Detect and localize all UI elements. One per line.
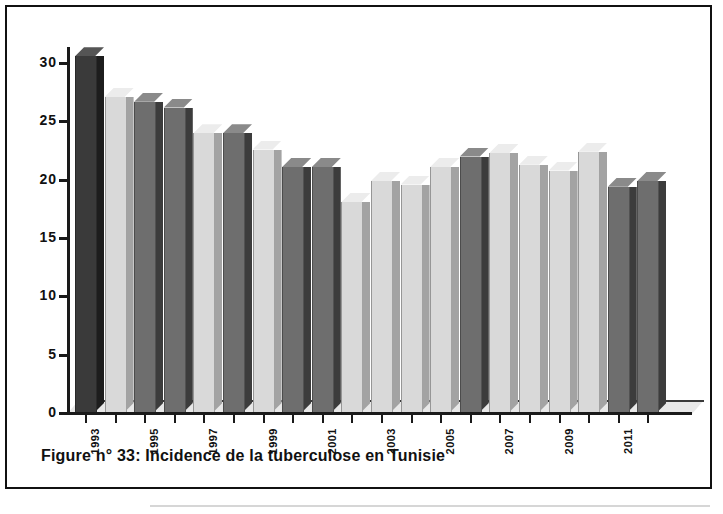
bar-top-face: [608, 178, 637, 187]
bar-front-face: [460, 157, 482, 413]
y-tick-mark: [59, 237, 68, 240]
bar-front-face: [164, 108, 186, 413]
bar-top-face: [371, 172, 400, 181]
bar-top-face: [193, 124, 222, 133]
y-tick-label: 0: [48, 404, 57, 420]
figure-caption: Figure n° 33: Incidence de la tuberculos…: [41, 447, 445, 465]
y-tick-label: 5: [48, 345, 57, 361]
y-tick-mark: [59, 179, 68, 182]
bar-2007: [489, 153, 509, 412]
x-tick-label-2009: 2009: [563, 428, 575, 454]
x-tick-mark: [559, 415, 561, 423]
bar-front-face: [134, 102, 156, 412]
bar-2000: [282, 167, 302, 412]
bar-top-face: [401, 176, 430, 185]
x-tick-mark: [115, 415, 117, 423]
bar-front-face: [578, 152, 600, 412]
x-axis-line: [67, 412, 692, 415]
page-rule: [150, 505, 710, 507]
bar-top-face: [341, 193, 370, 202]
bar-top-face: [519, 156, 548, 165]
bar-front-face: [105, 97, 127, 412]
x-tick-mark: [322, 415, 324, 423]
y-tick-label: 20: [39, 170, 57, 186]
bar-2005: [430, 167, 450, 412]
bar-2004: [401, 185, 421, 413]
bar-front-face: [75, 56, 97, 412]
bar-top-face: [253, 141, 282, 150]
bar-front-face: [430, 167, 452, 412]
bar-front-face: [519, 165, 541, 412]
bar-1994: [105, 97, 125, 412]
y-tick-label: 25: [39, 112, 57, 128]
y-tick-mark: [59, 295, 68, 298]
x-tick-mark: [144, 415, 146, 423]
bar-front-face: [312, 167, 334, 412]
x-tick-mark: [618, 415, 620, 423]
x-tick-mark: [233, 415, 235, 423]
x-tick-mark: [174, 415, 176, 423]
x-tick-mark: [411, 415, 413, 423]
bar-front-face: [637, 181, 659, 412]
x-tick-mark: [351, 415, 353, 423]
bar-front-face: [223, 133, 245, 412]
y-tick-mark: [59, 62, 68, 65]
bar-top-face: [549, 162, 578, 171]
x-tick-mark: [263, 415, 265, 423]
bar-top-face: [75, 47, 104, 56]
bar-2006: [460, 157, 480, 413]
x-tick-label-2005: 2005: [444, 428, 456, 454]
bar-top-face: [223, 124, 252, 133]
bar-2003: [371, 181, 391, 412]
bar-1997: [193, 133, 213, 412]
bar-top-face: [460, 148, 489, 157]
bar-1995: [134, 102, 154, 412]
bar-top-face: [134, 93, 163, 102]
x-tick-mark: [381, 415, 383, 423]
bar-top-face: [312, 158, 341, 167]
x-tick-label-2011: 2011: [622, 428, 634, 454]
x-tick-mark: [470, 415, 472, 423]
bar-2001: [312, 167, 332, 412]
x-tick-mark: [647, 415, 649, 423]
y-axis-line: [67, 47, 70, 412]
bar-2012: [637, 181, 657, 412]
bar-top-face: [282, 158, 311, 167]
bar-2011: [608, 187, 628, 412]
bar-top-face: [578, 143, 607, 152]
x-tick-mark: [499, 415, 501, 423]
x-tick-mark: [588, 415, 590, 423]
x-tick-mark: [292, 415, 294, 423]
y-tick-label: 15: [39, 229, 57, 245]
x-tick-mark: [529, 415, 531, 423]
bar-2009: [549, 171, 569, 413]
y-tick-mark: [59, 354, 68, 357]
x-tick-label-2007: 2007: [503, 428, 515, 454]
chart-plot-area: 051015202530 199319951997199920012003200…: [67, 32, 692, 397]
bar-front-face: [253, 150, 275, 413]
bar-front-face: [401, 185, 423, 413]
bar-2008: [519, 165, 539, 412]
bar-top-face: [489, 144, 518, 153]
bar-top-face: [105, 88, 134, 97]
bar-front-face: [489, 153, 511, 412]
y-tick-label: 10: [39, 287, 57, 303]
bar-front-face: [193, 133, 215, 412]
x-tick-mark: [440, 415, 442, 423]
bar-front-face: [549, 171, 571, 413]
y-tick-label: 30: [39, 54, 57, 70]
figure-frame: 051015202530 199319951997199920012003200…: [5, 5, 712, 489]
bar-top-face: [637, 172, 666, 181]
x-tick-mark: [85, 415, 87, 423]
bar-1993: [75, 56, 95, 412]
bar-top-face: [430, 158, 459, 167]
y-tick-mark: [59, 120, 68, 123]
bar-front-face: [282, 167, 304, 412]
bar-2010: [578, 152, 598, 412]
bar-front-face: [341, 202, 363, 412]
bar-2002: [341, 202, 361, 412]
x-tick-mark: [203, 415, 205, 423]
bar-1998: [223, 133, 243, 412]
bar-1999: [253, 150, 273, 413]
bar-top-face: [164, 99, 193, 108]
